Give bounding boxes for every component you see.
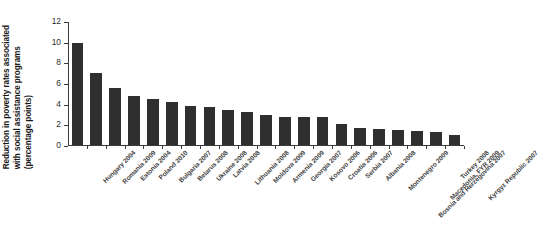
y-axis-title: Reduction in poverty rates associated wi…	[0, 0, 52, 175]
y-tick-label: 8	[56, 57, 61, 67]
y-axis-title-line-2: with social assistance programs	[14, 46, 22, 169]
y-tick-label: 4	[56, 99, 61, 109]
y-tick-label: 2	[56, 119, 61, 129]
y-tick: 0	[42, 146, 68, 147]
bar	[373, 129, 385, 145]
bar	[298, 117, 310, 145]
y-tick-label: 10	[52, 37, 61, 47]
bar	[279, 117, 291, 145]
y-tick-label: 0	[56, 140, 61, 150]
bar	[166, 102, 178, 145]
bar	[241, 112, 253, 145]
plot-area: 121086420	[68, 22, 464, 146]
bar	[128, 96, 140, 145]
y-tick: 6	[42, 84, 68, 85]
y-tick-label: 12	[52, 16, 61, 26]
bar	[336, 124, 348, 145]
bar	[260, 115, 272, 145]
bar	[90, 73, 102, 145]
y-tick-mark	[64, 125, 68, 126]
bar	[317, 117, 329, 145]
bar	[354, 128, 366, 145]
bar	[449, 135, 461, 145]
x-axis-labels: Hungary 2004Romania 2009Estonia 2004Pola…	[68, 149, 470, 238]
y-tick-mark	[64, 146, 68, 147]
y-axis-line	[68, 22, 69, 146]
bar	[411, 131, 423, 145]
x-axis-label: Bosnia and Herzegovina 2007	[437, 149, 507, 219]
y-tick-mark	[64, 84, 68, 85]
bar	[392, 130, 404, 145]
y-tick: 2	[42, 125, 68, 126]
y-tick-label: 6	[56, 78, 61, 88]
bar	[204, 107, 216, 145]
bar	[109, 88, 121, 145]
y-tick-mark	[64, 63, 68, 64]
y-tick: 4	[42, 105, 68, 106]
y-tick: 8	[42, 63, 68, 64]
x-axis-line	[68, 145, 464, 146]
y-tick: 10	[42, 43, 68, 44]
y-tick-mark	[64, 105, 68, 106]
y-tick-mark	[64, 22, 68, 23]
y-axis-title-line-1: Reduction in poverty rates associated	[3, 25, 11, 169]
y-tick-mark	[64, 43, 68, 44]
bar	[222, 110, 234, 145]
bar	[430, 132, 442, 145]
bar	[147, 99, 159, 146]
bar	[72, 43, 84, 145]
y-tick: 12	[42, 22, 68, 23]
bar	[185, 106, 197, 145]
y-axis-title-line-3: (percentage points)	[25, 95, 33, 169]
